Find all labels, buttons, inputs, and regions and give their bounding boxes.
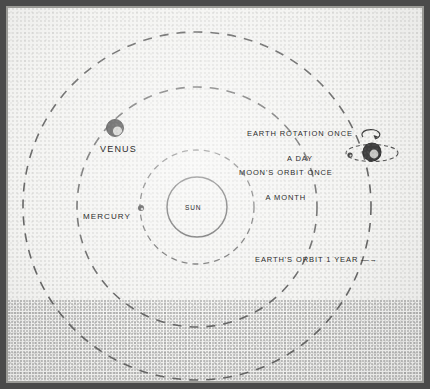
venus-body xyxy=(107,120,124,137)
venus-label: VENUS xyxy=(100,144,137,154)
mercury-highlight xyxy=(141,208,143,210)
diagram-canvas xyxy=(0,0,430,389)
earth-rotation-line-1: EARTH ROTATION ONCE xyxy=(247,130,353,138)
mercury-body xyxy=(138,205,144,211)
moon-orbit-annotation: MOON'S ORBIT ONCE A MONTH xyxy=(239,152,333,219)
earth-orbit-annotation: EARTH'S ORBIT 1 YEAR —→ xyxy=(255,256,378,264)
moon-orbit-line-1: MOON'S ORBIT ONCE xyxy=(239,169,333,177)
earth-group xyxy=(346,130,398,162)
earth-rotation-arrow-icon xyxy=(362,130,380,139)
sun-label: SUN xyxy=(185,204,201,211)
solar-system-figure: SUN MERCURY VENUS EARTH ROTATION ONCE A … xyxy=(0,0,430,389)
mercury-label: MERCURY xyxy=(83,213,131,222)
earth-highlight xyxy=(370,150,379,159)
moon-orbit-line-2: A MONTH xyxy=(239,194,333,202)
